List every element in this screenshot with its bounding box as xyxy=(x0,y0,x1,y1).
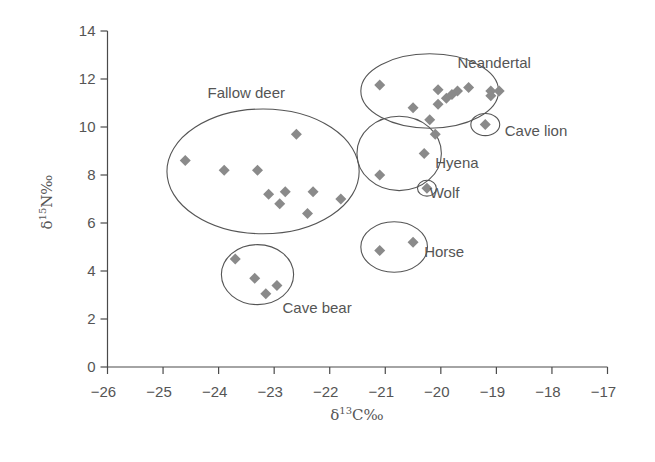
y-tick-label: 2 xyxy=(87,310,95,327)
horse-ellipse xyxy=(361,222,428,272)
fallow-deer-data-point xyxy=(219,165,230,176)
cave-bear-data-point xyxy=(271,280,282,291)
horse-label: Horse xyxy=(424,243,464,260)
horse-data-point xyxy=(374,245,385,256)
x-tick-label: −23 xyxy=(257,383,282,400)
hyena-data-point xyxy=(374,170,385,181)
fallow-deer-data-point xyxy=(252,165,263,176)
cave-bear-ellipse xyxy=(221,245,293,305)
hyena-data-point xyxy=(430,129,441,140)
fallow-deer-data-point xyxy=(302,208,313,219)
y-tick-label: 10 xyxy=(79,118,96,135)
y-tick-label: 14 xyxy=(79,22,96,39)
x-tick-label: −19 xyxy=(480,383,505,400)
cave-bear-data-point xyxy=(249,273,260,284)
cave-lion-label: Cave lion xyxy=(505,122,568,139)
cave-bear-label: Cave bear xyxy=(283,299,352,316)
horse-data-point xyxy=(408,237,419,248)
neandertal-label: Neandertal xyxy=(458,54,531,71)
cave-bear-data-point xyxy=(230,254,241,265)
y-axis-title: δ15N‰ xyxy=(37,174,56,229)
y-tick-label: 12 xyxy=(79,70,96,87)
y-tick-label: 6 xyxy=(87,214,95,231)
fallow-deer-data-point xyxy=(308,186,319,197)
y-tick-label: 4 xyxy=(87,262,95,279)
group-labels: Fallow deerCave bearNeandertalHyenaWolfC… xyxy=(208,54,568,316)
x-tick-label: −21 xyxy=(369,383,394,400)
fallow-deer-data-point xyxy=(291,129,302,140)
neandertal-data-point xyxy=(433,99,444,110)
plot-area: Fallow deerCave bearNeandertalHyenaWolfC… xyxy=(167,54,567,316)
x-tick-label: −17 xyxy=(591,383,616,400)
y-axis-title-delta: δ xyxy=(38,220,56,229)
neandertal-data-point xyxy=(408,102,419,113)
y-axis-ticks: 02468101214 xyxy=(79,22,108,375)
x-axis-title-element: C‰ xyxy=(352,406,384,424)
hyena-label: Hyena xyxy=(435,154,479,171)
y-tick-label: 0 xyxy=(87,358,95,375)
cave-lion-data-point xyxy=(480,119,491,130)
x-axis: −26−25−24−23−22−21−20−19−18−17 xyxy=(91,367,616,400)
fallow-deer-ellipse xyxy=(167,109,359,234)
fallow-deer-data-point xyxy=(274,198,285,209)
fallow-deer-data-point xyxy=(280,186,291,197)
neandertal-data-point xyxy=(463,82,474,93)
fallow-deer-data-point xyxy=(180,155,191,166)
fallow-deer-data-point xyxy=(335,194,346,205)
x-axis-title-delta: δ xyxy=(330,406,339,424)
y-axis: 02468101214 xyxy=(79,22,108,375)
x-axis-title-superscript: 13 xyxy=(339,405,352,416)
x-tick-label: −22 xyxy=(313,383,338,400)
x-tick-label: −26 xyxy=(91,383,116,400)
x-axis-title: δ13C‰ xyxy=(330,405,383,424)
neandertal-data-point xyxy=(374,80,385,91)
wolf-label: Wolf xyxy=(430,184,461,201)
neandertal-data-point xyxy=(433,84,444,95)
x-axis-ticks: −26−25−24−23−22−21−20−19−18−17 xyxy=(91,367,616,400)
hyena-data-point xyxy=(419,148,430,159)
cave-bear-data-point xyxy=(260,288,271,299)
x-tick-label: −20 xyxy=(424,383,449,400)
fallow-deer-label: Fallow deer xyxy=(208,84,286,101)
scatter-chart: Fallow deerCave bearNeandertalHyenaWolfC… xyxy=(0,0,655,462)
x-tick-label: −24 xyxy=(202,383,227,400)
y-axis-title-superscript: 15 xyxy=(37,208,48,221)
hyena-data-point xyxy=(424,114,435,125)
x-tick-label: −25 xyxy=(146,383,171,400)
fallow-deer-data-point xyxy=(263,189,274,200)
y-axis-title-element: N‰ xyxy=(38,174,56,207)
y-tick-label: 8 xyxy=(87,166,95,183)
x-tick-label: −18 xyxy=(535,383,560,400)
